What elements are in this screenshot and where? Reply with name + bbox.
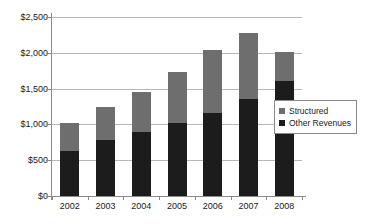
bar-segment-structured[interactable] — [239, 33, 258, 99]
y-axis-tick-mark — [46, 53, 51, 54]
stacked-bar-chart: $0$500$1,000$1,500$2,000$2,500 Structure… — [0, 0, 372, 224]
y-axis-tick-mark — [46, 196, 51, 197]
y-axis-tick-label: $2,000 — [20, 48, 48, 58]
x-axis-tick-mark — [159, 196, 160, 200]
x-axis-tick-mark — [302, 196, 303, 200]
x-axis-tick-label: 2004 — [124, 201, 158, 212]
bar-segment-other-revenues[interactable] — [168, 123, 187, 196]
bar-group[interactable] — [203, 17, 222, 196]
x-axis-tick-mark — [266, 196, 267, 200]
y-axis-tick-label: $1,500 — [20, 84, 48, 94]
y-axis-tick-label: $1,000 — [20, 119, 48, 129]
bar-segment-structured[interactable] — [96, 107, 115, 140]
legend-item[interactable]: Other Revenues — [279, 117, 351, 129]
x-axis-tick-label: 2002 — [53, 201, 87, 212]
bar-group[interactable] — [60, 17, 79, 196]
y-axis-tick-mark — [46, 160, 51, 161]
chart-legend: StructuredOther Revenues — [274, 100, 357, 134]
bar-segment-other-revenues[interactable] — [203, 113, 222, 196]
bar-segment-structured[interactable] — [132, 92, 151, 131]
gridline — [52, 196, 302, 197]
legend-item-label: Structured — [289, 106, 328, 116]
bar-segment-structured[interactable] — [275, 52, 294, 81]
x-axis-tick-mark — [231, 196, 232, 200]
x-axis-tick-label: 2006 — [196, 201, 230, 212]
bar-group[interactable] — [132, 17, 151, 196]
bar-segment-other-revenues[interactable] — [60, 151, 79, 196]
bar-segment-other-revenues[interactable] — [96, 140, 115, 196]
x-axis-tick-label: 2008 — [267, 201, 301, 212]
x-axis-tick-label: 2005 — [160, 201, 194, 212]
legend-item-label: Other Revenues — [289, 118, 351, 128]
bar-segment-structured[interactable] — [168, 72, 187, 123]
x-axis-tick-mark — [52, 196, 53, 200]
x-axis-tick-label: 2003 — [89, 201, 123, 212]
x-axis-tick-mark — [88, 196, 89, 200]
bar-segment-structured[interactable] — [203, 50, 222, 113]
bar-segment-other-revenues[interactable] — [239, 99, 258, 196]
y-axis-tick-labels: $0$500$1,000$1,500$2,000$2,500 — [0, 0, 48, 224]
y-axis-tick-mark — [46, 124, 51, 125]
x-axis-tick-mark — [195, 196, 196, 200]
legend-item[interactable]: Structured — [279, 105, 351, 117]
bar-series-container — [52, 17, 302, 196]
bar-group[interactable] — [239, 17, 258, 196]
x-axis-tick-mark — [123, 196, 124, 200]
bar-segment-other-revenues[interactable] — [275, 81, 294, 196]
bar-group[interactable] — [168, 17, 187, 196]
y-axis-tick-mark — [46, 89, 51, 90]
y-axis-tick-mark — [46, 17, 51, 18]
y-axis-tick-label: $2,500 — [20, 12, 48, 22]
bar-segment-structured[interactable] — [60, 123, 79, 151]
bar-segment-other-revenues[interactable] — [132, 132, 151, 196]
y-axis-tick-label: $500 — [28, 155, 48, 165]
legend-swatch-icon — [279, 108, 285, 114]
x-axis-tick-label: 2007 — [231, 201, 265, 212]
legend-swatch-icon — [279, 120, 285, 126]
bar-group[interactable] — [96, 17, 115, 196]
